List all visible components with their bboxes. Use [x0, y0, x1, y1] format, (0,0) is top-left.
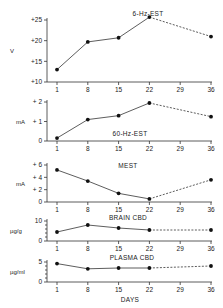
y-tick-label: 0 — [38, 278, 42, 285]
x-tick-label: 22 — [146, 245, 154, 252]
x-tick-label: 22 — [146, 286, 154, 293]
data-point — [117, 36, 121, 40]
x-tick-label: 8 — [86, 245, 90, 252]
panel-title: 6-Hz-EST — [133, 10, 164, 17]
x-tick-label: 15 — [115, 286, 123, 293]
data-point — [55, 168, 59, 172]
chart-figure: +10+15+20+251815222936V6-Hz-EST0+ 1+ 218… — [0, 0, 223, 308]
data-point — [55, 68, 59, 72]
x-tick-label: 1 — [55, 206, 59, 213]
x-tick-label: 22 — [146, 206, 154, 213]
data-point — [86, 223, 90, 227]
y-axis-label: µg/g — [10, 228, 22, 234]
x-tick-label: 15 — [115, 86, 123, 93]
x-tick-label: 1 — [55, 86, 59, 93]
x-tick-label: 8 — [86, 86, 90, 93]
series-line — [57, 225, 149, 232]
series-line-projected — [149, 180, 211, 199]
chart-panels: +10+15+20+251815222936V6-Hz-EST0+ 1+ 218… — [10, 10, 215, 293]
x-tick-label: 36 — [207, 286, 215, 293]
data-point — [86, 267, 90, 271]
y-tick-label: 5 — [38, 258, 42, 265]
y-axis-label: V — [10, 48, 14, 54]
data-point — [209, 115, 213, 119]
series-line-projected — [149, 266, 211, 268]
data-point — [86, 179, 90, 183]
panel-title: PLASMA CBD — [110, 254, 155, 261]
x-tick-label: 29 — [177, 245, 185, 252]
data-point — [86, 40, 90, 44]
x-tick-label: 29 — [177, 206, 185, 213]
x-tick-label: 1 — [55, 286, 59, 293]
data-point — [55, 262, 59, 266]
x-tick-label: 1 — [55, 245, 59, 252]
y-tick-label: 10 — [35, 217, 43, 224]
x-tick-label: 36 — [207, 145, 215, 152]
y-tick-label: 0 — [38, 237, 42, 244]
data-point — [209, 264, 213, 268]
panel-title: MEST — [118, 162, 137, 169]
data-point — [209, 228, 213, 232]
y-tick-label: + 2 — [33, 98, 43, 105]
data-point — [148, 101, 152, 105]
data-point — [55, 230, 59, 234]
y-tick-label: 0 — [38, 137, 42, 144]
x-tick-label: 1 — [55, 145, 59, 152]
data-point — [209, 35, 213, 39]
x-tick-label: 29 — [177, 286, 185, 293]
x-tick-label: 22 — [146, 86, 154, 93]
y-tick-label: + 4 — [33, 174, 43, 181]
data-point — [209, 178, 213, 182]
x-tick-label: 15 — [115, 245, 123, 252]
x-axis-label: DAYS — [121, 296, 140, 303]
x-tick-label: 8 — [86, 206, 90, 213]
x-tick-label: 15 — [115, 145, 123, 152]
data-point — [86, 118, 90, 122]
y-tick-label: +10 — [31, 78, 42, 85]
y-tick-label: + 6 — [33, 161, 43, 168]
panel-title: 60-Hz-EST — [113, 130, 148, 137]
data-point — [117, 191, 121, 195]
series-line — [57, 17, 149, 69]
data-point — [117, 114, 121, 118]
x-tick-label: 36 — [207, 206, 215, 213]
series-line — [57, 264, 149, 269]
panel-title: BRAIN CBD — [109, 214, 147, 221]
y-tick-label: +20 — [31, 37, 42, 44]
series-line-projected — [149, 103, 211, 117]
y-tick-label: +25 — [31, 16, 42, 23]
y-tick-label: 0 — [38, 198, 42, 205]
x-tick-label: 36 — [207, 86, 215, 93]
x-tick-label: 15 — [115, 206, 123, 213]
x-tick-label: 8 — [86, 145, 90, 152]
y-axis-label: µg/ml — [10, 269, 25, 275]
data-point — [117, 226, 121, 230]
data-point — [55, 136, 59, 140]
y-tick-label: + 1 — [33, 118, 43, 125]
y-axis-label: mA — [16, 119, 25, 125]
data-point — [117, 266, 121, 270]
x-tick-label: 8 — [86, 286, 90, 293]
y-axis-label: mA — [16, 181, 25, 187]
x-tick-label: 29 — [177, 86, 185, 93]
data-point — [148, 266, 152, 270]
series-line-projected — [149, 17, 211, 36]
y-tick-label: +15 — [31, 58, 42, 65]
y-tick-label: + 2 — [33, 186, 43, 193]
data-point — [148, 197, 152, 201]
x-tick-label: 22 — [146, 145, 154, 152]
data-point — [148, 228, 152, 232]
x-tick-label: 29 — [177, 145, 185, 152]
x-tick-label: 36 — [207, 245, 215, 252]
series-line — [57, 170, 149, 199]
